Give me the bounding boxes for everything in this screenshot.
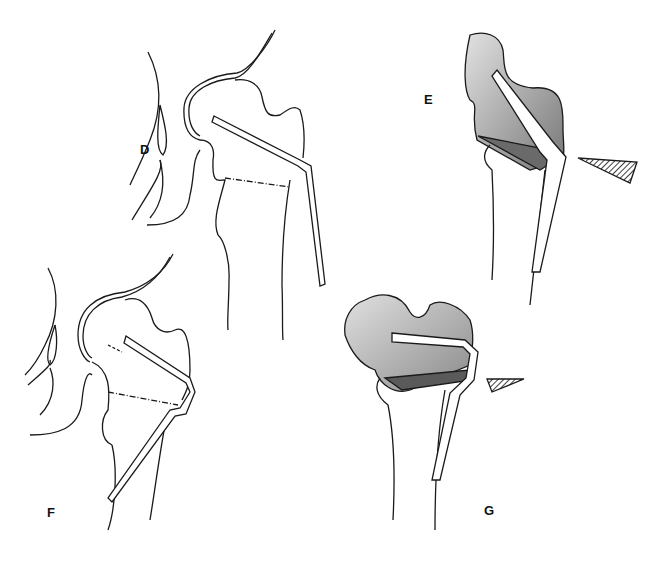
panel-label-f: F bbox=[47, 505, 55, 520]
panel-e bbox=[465, 33, 637, 305]
panel-label-d: D bbox=[140, 142, 149, 157]
panel-f bbox=[25, 254, 195, 530]
figure-drawing bbox=[0, 0, 663, 566]
figure-canvas: D E F G bbox=[0, 0, 663, 566]
panel-g bbox=[345, 295, 524, 530]
panel-d bbox=[130, 30, 325, 340]
panel-label-e: E bbox=[424, 92, 433, 107]
panel-label-g: G bbox=[484, 503, 494, 518]
